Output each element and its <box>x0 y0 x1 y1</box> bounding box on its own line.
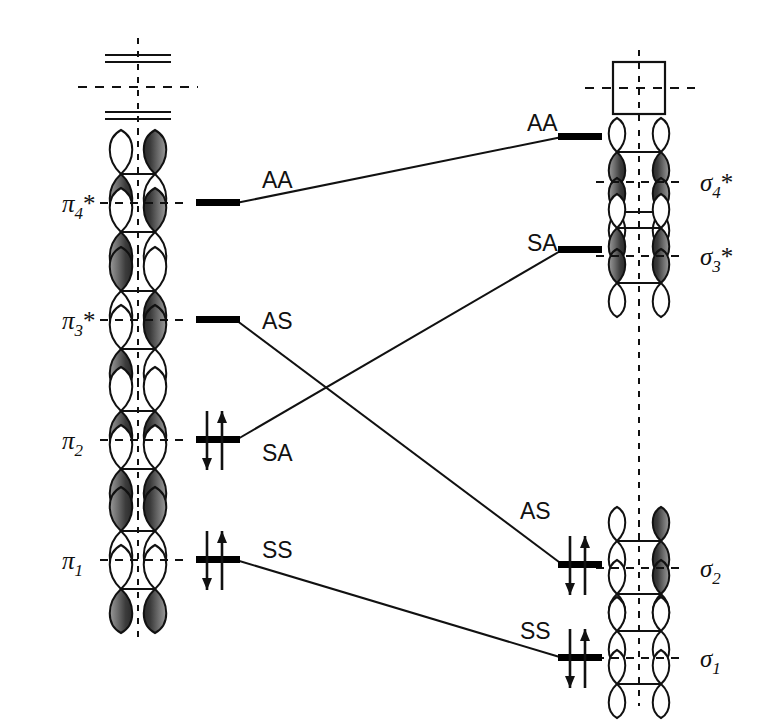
orbital-label-sigma1: σ1 <box>700 645 721 678</box>
energy-level-pi3star <box>196 316 240 323</box>
left-energy-levels <box>196 199 240 563</box>
correlation-line-sa <box>236 250 562 440</box>
energy-level-pi4star <box>196 199 240 206</box>
symmetry-label-aa-left: AA <box>262 167 293 193</box>
energy-level-sigma4star <box>558 133 602 140</box>
orbital-label-pi4star: π4* <box>62 190 96 223</box>
mo-picture-pi1 <box>100 487 186 638</box>
orbital-label-sigma3star: σ3* <box>700 243 733 276</box>
orbital-label-pi2: π2 <box>62 427 84 460</box>
orbital-label-sigma2: σ2 <box>700 555 721 588</box>
symmetry-label-ss-left: SS <box>262 537 293 563</box>
symmetry-label-as-left: AS <box>262 308 293 334</box>
symmetry-label-sa-right: SA <box>527 230 558 256</box>
correlation-lines <box>236 137 563 658</box>
symmetry-label-sa-left: SA <box>262 440 293 466</box>
orbital-label-pi1: π1 <box>62 547 83 580</box>
energy-level-sigma2 <box>558 561 602 568</box>
symmetry-label-as-right: AS <box>520 498 551 524</box>
orbital-correlation-diagram: π4* π3* π2 π1 σ4* σ3* σ2 σ1 AA AA AS AS … <box>0 0 783 725</box>
energy-level-sigma1 <box>558 654 602 661</box>
orbital-label-pi3star: π3* <box>62 307 96 340</box>
energy-level-sigma3star <box>558 246 602 253</box>
symmetry-label-ss-right: SS <box>520 618 551 644</box>
symmetry-label-aa-right: AA <box>527 110 558 136</box>
orbital-label-sigma4star: σ4* <box>700 169 733 202</box>
right-energy-levels <box>558 133 602 661</box>
mo-picture-sigma1 <box>596 597 684 718</box>
correlation-line-ss <box>236 560 563 658</box>
energy-level-pi1 <box>196 556 240 563</box>
energy-level-pi2 <box>196 436 240 443</box>
mo-picture-sigma3star <box>596 194 684 317</box>
cyclobutene-square-structure <box>585 50 695 128</box>
